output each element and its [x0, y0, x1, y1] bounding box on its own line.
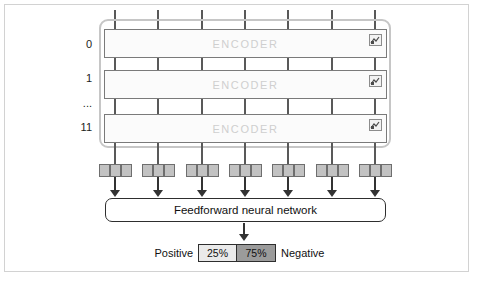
prediction-positive-label: Positive	[150, 247, 199, 259]
token-group-7[interactable]	[359, 164, 392, 177]
figure-canvas: ENCODER ENCODER ENCODER 0 1 ...	[0, 0, 479, 281]
feedforward-network-box[interactable]: Feedforward neural network	[105, 198, 386, 222]
connector-r1r11-7	[374, 99, 376, 115]
image-placeholder-icon	[369, 119, 382, 131]
output-line-3	[201, 143, 203, 165]
prediction-row: Positive 25% 75% Negative	[0, 244, 479, 262]
token-cell	[327, 164, 338, 177]
token-cell	[272, 164, 283, 177]
token-cell	[251, 164, 262, 177]
row-label-0: 0	[72, 38, 92, 50]
token-group-3[interactable]	[186, 164, 219, 177]
connector-r1r11-4	[244, 99, 246, 115]
connector-r1r11-1	[114, 99, 116, 115]
token-cell	[283, 164, 294, 177]
arrow-shaft-4	[244, 177, 246, 191]
prediction-bar[interactable]: 25% 75%	[198, 244, 276, 262]
token-cell	[186, 164, 197, 177]
token-cell	[229, 164, 240, 177]
arrow-shaft-1	[114, 177, 116, 191]
token-cell	[197, 164, 208, 177]
encoder-box-11[interactable]: ENCODER	[104, 114, 387, 143]
feedforward-network-label: Feedforward neural network	[174, 204, 317, 216]
arrow-head-3	[197, 190, 207, 197]
connector-r1r11-5	[287, 99, 289, 115]
token-cell	[153, 164, 164, 177]
arrow-shaft-6	[331, 177, 333, 191]
image-placeholder-icon	[369, 34, 382, 46]
token-cell	[99, 164, 110, 177]
image-placeholder-icon	[369, 75, 382, 87]
encoder-box-0[interactable]: ENCODER	[104, 29, 387, 58]
connector-r1r11-6	[331, 99, 333, 115]
token-group-6[interactable]	[316, 164, 349, 177]
token-cell	[208, 164, 219, 177]
encoder-box-0-label: ENCODER	[105, 30, 386, 57]
token-cell	[338, 164, 349, 177]
arrow-shaft-7	[374, 177, 376, 191]
token-cell	[359, 164, 370, 177]
token-group-2[interactable]	[142, 164, 175, 177]
arrow-shaft-2	[157, 177, 159, 191]
prediction-positive-value[interactable]: 25%	[199, 245, 237, 261]
token-group-5[interactable]	[272, 164, 305, 177]
arrow-head-2	[153, 190, 163, 197]
arrow-shaft-3	[201, 177, 203, 191]
connector-r1r11-3	[201, 99, 203, 115]
row-label-1: 1	[72, 72, 92, 84]
prediction-negative-label: Negative	[276, 247, 329, 259]
token-cell	[294, 164, 305, 177]
token-cell	[142, 164, 153, 177]
row-label-11: 11	[72, 121, 92, 133]
encoder-box-1-label: ENCODER	[105, 71, 386, 98]
connector-r1r11-2	[157, 99, 159, 115]
token-cell	[316, 164, 327, 177]
token-group-4[interactable]	[229, 164, 262, 177]
arrow-head-7	[370, 190, 380, 197]
token-cell	[164, 164, 175, 177]
token-cell	[381, 164, 392, 177]
encoder-box-11-label: ENCODER	[105, 115, 386, 142]
row-label-ellipsis: ...	[72, 97, 92, 109]
arrow-head-output	[239, 234, 249, 241]
encoder-box-1[interactable]: ENCODER	[104, 70, 387, 99]
output-line-4	[244, 143, 246, 165]
token-cell	[240, 164, 251, 177]
arrow-head-5	[283, 190, 293, 197]
output-line-1	[114, 143, 116, 165]
token-group-1[interactable]	[99, 164, 132, 177]
output-line-5	[287, 143, 289, 165]
arrow-head-6	[327, 190, 337, 197]
arrow-head-4	[240, 190, 250, 197]
output-line-6	[331, 143, 333, 165]
output-line-2	[157, 143, 159, 165]
arrow-shaft-5	[287, 177, 289, 191]
token-cell	[110, 164, 121, 177]
token-cell	[121, 164, 132, 177]
prediction-negative-value[interactable]: 75%	[237, 245, 275, 261]
output-line-7	[374, 143, 376, 165]
arrow-head-1	[110, 190, 120, 197]
token-cell	[370, 164, 381, 177]
